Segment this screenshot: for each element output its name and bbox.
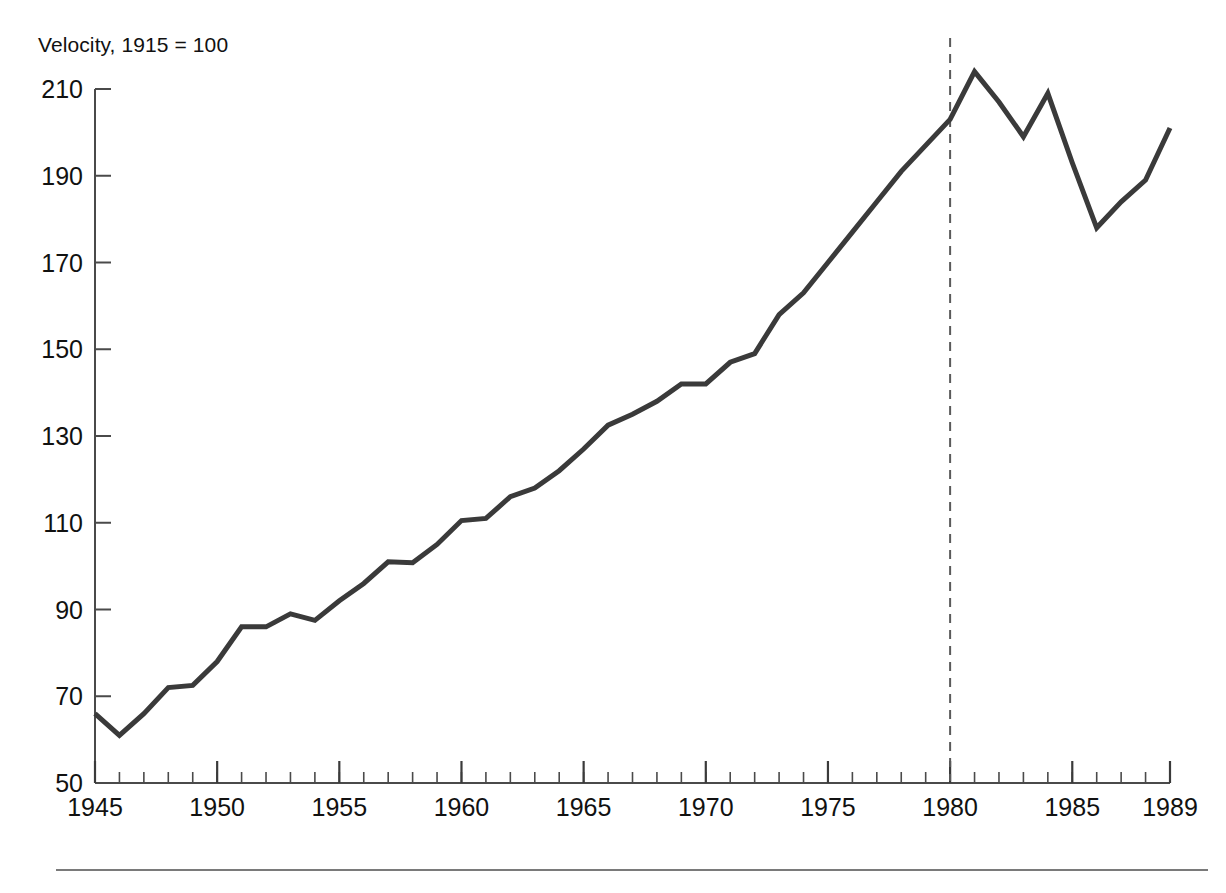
axis-lines: [95, 89, 1170, 783]
y-axis-major-ticks: [95, 89, 111, 696]
x-axis-minor-ticks: [95, 772, 1170, 783]
velocity-data-line: [95, 72, 1170, 736]
velocity-chart-figure: Velocity, 1915 = 100 5070901101301501701…: [0, 0, 1226, 893]
footer-divider-rule: [56, 869, 1208, 871]
plot-area: [0, 0, 1226, 893]
